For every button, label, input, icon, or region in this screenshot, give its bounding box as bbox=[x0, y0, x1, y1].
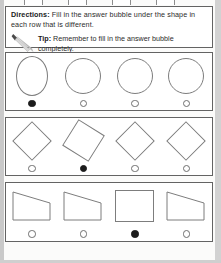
answer-bubble[interactable] bbox=[80, 100, 88, 108]
shape-row-trapezoids bbox=[5, 182, 213, 242]
answer-bubble[interactable] bbox=[183, 165, 191, 173]
worksheet-page: Directions: Fill in the answer bubble un… bbox=[0, 0, 221, 263]
directions-box: Directions: Fill in the answer bubble un… bbox=[5, 6, 213, 48]
circle-shape bbox=[168, 58, 204, 94]
shape-cell[interactable] bbox=[6, 118, 58, 175]
trapezoid-shape bbox=[63, 190, 103, 222]
pencil-icon bbox=[11, 33, 37, 53]
tip-line: Tip: Remember to fill in the answer bubb… bbox=[38, 34, 207, 53]
tip-row: Tip: Remember to fill in the answer bubb… bbox=[11, 34, 207, 52]
scan-edge-right bbox=[215, 0, 221, 263]
circle-shape bbox=[65, 58, 101, 94]
shape-cell[interactable] bbox=[161, 53, 213, 110]
answer-bubble[interactable] bbox=[131, 165, 139, 173]
directions-label: Directions: bbox=[11, 10, 50, 19]
tip-label: Tip: bbox=[38, 34, 51, 43]
trapezoid-shape bbox=[166, 190, 206, 222]
answer-bubble[interactable] bbox=[80, 230, 88, 238]
answer-bubble[interactable] bbox=[131, 230, 139, 238]
shape-cell[interactable] bbox=[109, 53, 161, 110]
rectangle-shape bbox=[115, 190, 154, 222]
answer-bubble[interactable] bbox=[80, 165, 88, 173]
answer-bubble[interactable] bbox=[183, 230, 191, 238]
shape-cell[interactable] bbox=[109, 118, 161, 175]
shape-cell[interactable] bbox=[58, 183, 110, 241]
answer-bubble[interactable] bbox=[183, 100, 191, 108]
diamond-shape bbox=[12, 121, 52, 161]
shape-cell[interactable] bbox=[109, 183, 161, 241]
answer-bubble[interactable] bbox=[28, 100, 36, 108]
shape-row-diamonds bbox=[5, 117, 213, 176]
shape-cell[interactable] bbox=[58, 53, 110, 110]
clipped-row-above bbox=[6, 0, 212, 5]
trapezoid-shape bbox=[12, 190, 52, 222]
diamond-shape bbox=[115, 121, 155, 161]
shape-cell[interactable] bbox=[58, 118, 110, 175]
shape-cell[interactable] bbox=[6, 53, 58, 110]
circle-shape bbox=[117, 58, 153, 94]
scan-edge-left bbox=[0, 0, 4, 263]
shape-cell[interactable] bbox=[161, 183, 213, 241]
diamond-tilted-shape bbox=[62, 119, 105, 162]
shape-row-ovals-circles bbox=[5, 52, 213, 111]
oval-shape bbox=[16, 56, 48, 96]
shape-cell[interactable] bbox=[161, 118, 213, 175]
answer-bubble[interactable] bbox=[28, 165, 36, 173]
tip-text: Remember to fill in the answer bubble co… bbox=[38, 34, 174, 53]
directions-line: Directions: Fill in the answer bubble un… bbox=[11, 10, 207, 29]
shape-cell[interactable] bbox=[6, 183, 58, 241]
diamond-shape bbox=[166, 121, 206, 161]
answer-bubble[interactable] bbox=[131, 100, 139, 108]
answer-bubble[interactable] bbox=[28, 230, 36, 238]
